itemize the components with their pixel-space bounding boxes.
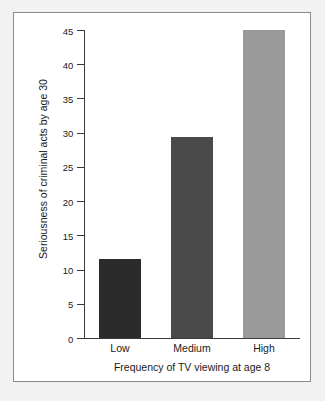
x-axis-line	[84, 338, 300, 339]
y-tick-mark	[77, 338, 84, 339]
y-axis-title: Seriousness of criminal acts by age 30	[37, 44, 49, 294]
y-tick-15: 15	[77, 235, 84, 236]
y-tick-label: 5	[68, 299, 73, 310]
category-label-medium: Medium	[156, 342, 228, 354]
y-tick-mark	[77, 30, 84, 31]
y-tick-mark	[77, 64, 84, 65]
plot-area	[84, 30, 300, 338]
y-tick-mark	[77, 201, 84, 202]
y-tick-label: 0	[68, 333, 73, 344]
y-tick-label: 20	[63, 196, 73, 207]
bar-low[interactable]	[99, 259, 141, 338]
y-tick-20: 20	[77, 201, 84, 202]
y-tick-label: 35	[63, 93, 73, 104]
category-label-low: Low	[84, 342, 156, 354]
bar-medium[interactable]	[171, 137, 213, 338]
y-tick-mark	[77, 304, 84, 305]
y-tick-mark	[77, 133, 84, 134]
y-tick-10: 10	[77, 270, 84, 271]
y-tick-label: 15	[63, 230, 73, 241]
y-tick-45: 45	[77, 30, 84, 31]
y-tick-mark	[77, 98, 84, 99]
y-tick-40: 40	[77, 64, 84, 65]
y-tick-5: 5	[77, 304, 84, 305]
y-tick-mark	[77, 167, 84, 168]
y-tick-label: 10	[63, 265, 73, 276]
y-tick-0: 0	[77, 338, 84, 339]
x-axis-title: Frequency of TV viewing at age 8	[84, 361, 300, 373]
y-tick-label: 30	[63, 128, 73, 139]
y-tick-mark	[77, 270, 84, 271]
y-tick-25: 25	[77, 167, 84, 168]
figure-root: 051015202530354045 LowMediumHigh Frequen…	[0, 0, 325, 401]
category-label-high: High	[228, 342, 300, 354]
bar-high[interactable]	[243, 30, 285, 338]
y-tick-35: 35	[77, 98, 84, 99]
chart-frame: 051015202530354045 LowMediumHigh Frequen…	[13, 12, 311, 382]
y-tick-label: 45	[63, 25, 73, 36]
y-tick-label: 40	[63, 59, 73, 70]
y-tick-30: 30	[77, 133, 84, 134]
y-tick-mark	[77, 235, 84, 236]
y-tick-label: 25	[63, 162, 73, 173]
